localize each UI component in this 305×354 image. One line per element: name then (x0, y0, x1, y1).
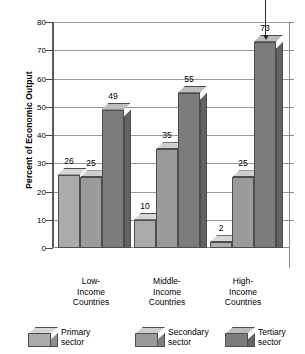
category-label-line: High- (195, 276, 291, 287)
bar-front-face (210, 242, 232, 248)
y-axis-tick-right (289, 50, 294, 51)
category-label-line: Income (195, 287, 291, 298)
plot-area: 80706050403020100 26254910355522573 (52, 22, 290, 268)
legend-label-line: sector (168, 337, 209, 347)
bar-top-face (254, 35, 283, 42)
legend-cube-side (247, 333, 255, 347)
bar-front-face (232, 177, 254, 248)
y-axis-tick (46, 79, 53, 80)
legend-cube-icon (28, 327, 58, 347)
y-axis-tick-label: 0 (20, 244, 46, 253)
y-axis-tick-label: 30 (20, 159, 46, 168)
bar-front-face (80, 177, 102, 248)
legend-label-line: sector (61, 337, 90, 347)
plot-frame-right (289, 22, 290, 268)
legend-label-line: Tertiary (258, 327, 286, 337)
legend-cube-top (135, 327, 165, 334)
bar: 55 (178, 86, 200, 248)
y-axis-tick-label: 20 (20, 187, 46, 196)
legend-label-line: sector (258, 337, 286, 347)
bar-value-label: 49 (95, 91, 131, 101)
y-axis-tick-label: 40 (20, 131, 46, 140)
bar-top-face (102, 103, 131, 110)
bar-front-face (58, 175, 80, 248)
bar-value-label: 55 (171, 74, 207, 84)
annotation-arrow-head (263, 35, 269, 40)
bar-front-face (134, 220, 156, 248)
bar-front-face (102, 110, 124, 248)
y-axis-tick-right (289, 192, 294, 193)
bar-side-face (124, 110, 131, 248)
bar-front-face (254, 42, 276, 248)
y-axis-tick (46, 107, 53, 108)
bar-chart: Percent of Economic Output 8070605040302… (0, 0, 305, 354)
legend-label: Secondarysector (168, 327, 209, 347)
legend-label-line: Primary (61, 327, 90, 337)
y-axis-tick (46, 22, 53, 23)
y-axis-tick-right (289, 22, 294, 23)
y-axis-tick-label: 70 (20, 46, 46, 55)
category-label-line: Countries (195, 297, 291, 308)
y-axis-tick (46, 50, 53, 51)
legend-cube-top (225, 327, 255, 334)
legend-cube-icon (225, 327, 255, 347)
legend-cube-top (28, 327, 58, 334)
bar-side-face (276, 42, 283, 248)
y-axis-tick-right (289, 107, 294, 108)
y-axis-tick-right (289, 220, 294, 221)
legend-cube-icon (135, 327, 165, 347)
bar: 49 (102, 103, 124, 248)
legend-label-line: Secondary (168, 327, 209, 337)
legend-cube-front (28, 333, 51, 347)
y-axis-tick-right (289, 135, 294, 136)
bar: 25 (232, 170, 254, 248)
legend-cube-front (225, 333, 248, 347)
bar-front-face (156, 149, 178, 248)
y-axis-tick-label: 10 (20, 215, 46, 224)
bar: 10 (134, 213, 156, 248)
bar: 73 (254, 35, 276, 248)
y-axis-tick-right (289, 163, 294, 164)
legend-label: Primarysector (61, 327, 90, 347)
y-axis-tick (46, 192, 53, 193)
bar: 2 (210, 235, 232, 248)
y-axis-tick (46, 248, 53, 249)
annotation-arrow-line (265, 0, 266, 36)
y-axis-tick-label: 50 (20, 102, 46, 111)
bar: 35 (156, 142, 178, 248)
chart-legend: PrimarysectorSecondarysectorTertiarysect… (0, 322, 305, 354)
y-axis-tick (46, 135, 53, 136)
legend-label: Tertiarysector (258, 327, 286, 347)
bar: 26 (58, 168, 80, 248)
y-axis-tick-right (289, 79, 294, 80)
legend-cube-side (50, 333, 58, 347)
y-axis-tick (46, 220, 53, 221)
y-axis-tick-label: 80 (20, 18, 46, 27)
y-axis-tick-label: 60 (20, 74, 46, 83)
legend-cube-front (135, 333, 158, 347)
bar-front-face (178, 93, 200, 248)
legend-cube-side (157, 333, 165, 347)
category-label: High-IncomeCountries (195, 276, 291, 308)
bar-top-face (178, 86, 207, 93)
bar: 25 (80, 170, 102, 248)
